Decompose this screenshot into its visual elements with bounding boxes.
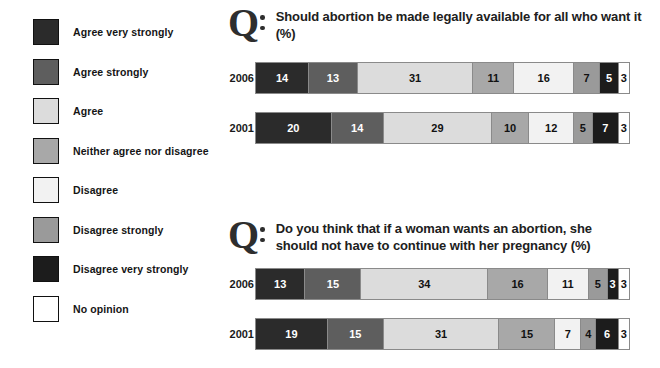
question-mark-glyph: Q <box>228 218 258 252</box>
bar-segment-value: 11 <box>488 73 500 84</box>
legend-swatch-icon <box>33 256 59 282</box>
legend-item[interactable]: Agree <box>33 97 103 125</box>
bar-segment-value: 15 <box>349 329 361 340</box>
question-text: Do you think that if a woman wants an ab… <box>276 220 606 254</box>
bar-segment-value: 13 <box>327 73 339 84</box>
bar-year-label: 2006 <box>218 268 254 300</box>
bar-segment-value: 3 <box>610 279 616 290</box>
bar-segment[interactable]: 31 <box>383 319 499 349</box>
bar-segment-value: 19 <box>285 329 297 340</box>
bar-segment[interactable]: 16 <box>487 269 547 299</box>
bar-segment-value: 14 <box>351 123 363 134</box>
bar-segment-value: 16 <box>538 73 550 84</box>
bar-segment[interactable]: 11 <box>472 63 513 93</box>
stacked-bar: 1315341611533 <box>255 268 630 300</box>
bar-year-label: 2001 <box>218 318 254 350</box>
legend-item-label: No opinion <box>73 303 129 315</box>
bar-segment[interactable]: 15 <box>498 319 554 349</box>
bar-year-label: 2001 <box>218 112 254 144</box>
bar-segment[interactable]: 10 <box>491 113 528 143</box>
bar-segment-value: 3 <box>621 123 627 134</box>
legend-item[interactable]: Disagree strongly <box>33 216 163 244</box>
bar-row: 2001191531157463 <box>225 318 660 350</box>
bar-segment[interactable]: 3 <box>618 269 629 299</box>
bar-row: 20061413311116753 <box>225 62 660 94</box>
bar-segment[interactable]: 7 <box>573 63 599 93</box>
bar-segment[interactable]: 4 <box>580 319 595 349</box>
bar-segment-value: 16 <box>511 279 523 290</box>
bar-segment[interactable]: 3 <box>607 269 618 299</box>
legend: Agree very stronglyAgree stronglyAgreeNe… <box>0 0 225 368</box>
legend-item-label: Agree strongly <box>73 66 149 78</box>
bar-segment[interactable]: 13 <box>256 269 304 299</box>
bar-segment[interactable]: 3 <box>618 319 629 349</box>
bar-segment[interactable]: 5 <box>599 63 618 93</box>
stacked-bar: 191531157463 <box>255 318 630 350</box>
legend-item[interactable]: Disagree very strongly <box>33 255 188 283</box>
question-mark-glyph: Q <box>228 6 258 40</box>
bar-segment-value: 7 <box>584 73 590 84</box>
bar-segment-value: 10 <box>504 123 516 134</box>
bar-segment[interactable]: 15 <box>304 269 360 299</box>
legend-swatch-icon <box>33 177 59 203</box>
bar-segment-value: 4 <box>585 329 591 340</box>
bar-segment[interactable]: 16 <box>513 63 573 93</box>
bar-segment[interactable]: 7 <box>592 113 618 143</box>
legend-swatch-icon <box>33 59 59 85</box>
bar-segment[interactable]: 7 <box>554 319 580 349</box>
legend-item[interactable]: Agree strongly <box>33 58 149 86</box>
bar-segment[interactable]: 12 <box>528 113 573 143</box>
bar-segment-value: 20 <box>287 123 299 134</box>
bar-segment-value: 31 <box>435 329 447 340</box>
bar-segment[interactable]: 3 <box>618 63 629 93</box>
legend-item-label: Disagree strongly <box>73 224 163 236</box>
legend-item-label: Disagree <box>73 184 118 196</box>
legend-item[interactable]: Agree very strongly <box>33 18 174 46</box>
legend-item[interactable]: Disagree <box>33 176 118 204</box>
bar-segment[interactable]: 14 <box>331 113 383 143</box>
bar-segment-value: 5 <box>580 123 586 134</box>
legend-item-label: Agree <box>73 105 103 117</box>
bar-segment-value: 3 <box>621 73 627 84</box>
chart-page: Agree very stronglyAgree stronglyAgreeNe… <box>0 0 660 368</box>
bar-segment-value: 14 <box>276 73 288 84</box>
bar-segment[interactable]: 6 <box>595 319 617 349</box>
legend-item-label: Neither agree nor disagree <box>73 145 209 157</box>
bar-segment[interactable]: 14 <box>256 63 308 93</box>
bar-segment-value: 34 <box>418 279 430 290</box>
bar-segment-value: 7 <box>602 123 608 134</box>
bar-segment[interactable]: 5 <box>573 113 592 143</box>
question-header: QDo you think that if a woman wants an a… <box>225 218 660 254</box>
colon-icon <box>260 224 265 245</box>
bar-row: 20012014291012573 <box>225 112 660 144</box>
bar-segment-value: 3 <box>621 279 627 290</box>
bar-segment[interactable]: 20 <box>256 113 331 143</box>
legend-item-label: Disagree very strongly <box>73 263 188 275</box>
bar-segment[interactable]: 11 <box>547 269 588 299</box>
legend-swatch-icon <box>33 19 59 45</box>
bar-segment[interactable]: 15 <box>327 319 383 349</box>
bar-segment-value: 5 <box>606 73 612 84</box>
bar-segment-value: 5 <box>595 279 601 290</box>
bar-segment-value: 6 <box>604 329 610 340</box>
legend-swatch-icon <box>33 98 59 124</box>
bar-segment[interactable]: 31 <box>357 63 473 93</box>
legend-swatch-icon <box>33 217 59 243</box>
bar-segment[interactable]: 29 <box>383 113 491 143</box>
stacked-bar: 2014291012573 <box>255 112 630 144</box>
legend-swatch-icon <box>33 138 59 164</box>
bar-row: 20061315341611533 <box>225 268 660 300</box>
chart-panel: QShould abortion be made legally availab… <box>225 0 660 368</box>
bar-segment[interactable]: 5 <box>588 269 607 299</box>
bar-segment-value: 15 <box>327 279 339 290</box>
bar-segment[interactable]: 34 <box>360 269 487 299</box>
legend-item[interactable]: No opinion <box>33 295 129 323</box>
bar-segment[interactable]: 3 <box>618 113 629 143</box>
bar-segment-value: 7 <box>565 329 571 340</box>
question-header: QShould abortion be made legally availab… <box>225 6 660 42</box>
bar-year-label: 2006 <box>218 62 254 94</box>
bar-segment-value: 29 <box>431 123 443 134</box>
bar-segment[interactable]: 19 <box>256 319 327 349</box>
legend-item[interactable]: Neither agree nor disagree <box>33 137 209 165</box>
bar-segment[interactable]: 13 <box>308 63 356 93</box>
